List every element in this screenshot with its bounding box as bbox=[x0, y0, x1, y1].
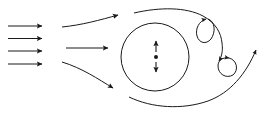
lower-streamline-wake-segment bbox=[129, 50, 256, 107]
upper-streamline-wake-segment bbox=[134, 9, 222, 61]
lower-streamline bbox=[62, 50, 256, 107]
flow-diagram-canvas bbox=[0, 0, 279, 117]
oscillation-arrow bbox=[154, 41, 158, 72]
inflow-arrow-group bbox=[8, 26, 42, 64]
upper-streamline bbox=[62, 9, 222, 61]
lower-vortex-loop bbox=[218, 58, 236, 77]
upper-streamline-inlet-segment bbox=[62, 15, 118, 27]
oscillation-center-dot bbox=[154, 55, 158, 59]
lower-vortex bbox=[218, 58, 236, 77]
lower-streamline-inlet-segment bbox=[62, 62, 113, 88]
flow-diagram-figure bbox=[0, 0, 279, 117]
